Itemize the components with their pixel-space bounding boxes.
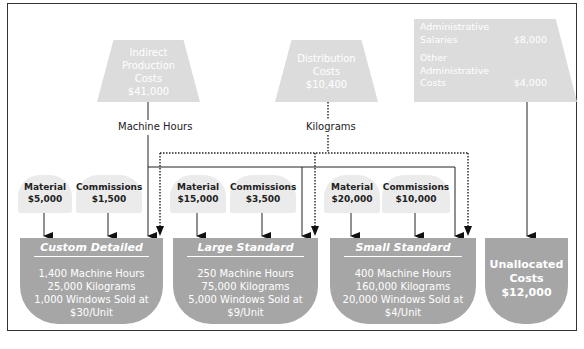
unallocated-label: Costs xyxy=(485,272,568,286)
product-detail: 75,000 Kilograms xyxy=(173,280,318,293)
direct-cost-label: Commissions xyxy=(230,181,296,193)
direct-cost-commissions: Commissions $1,500 xyxy=(76,175,142,213)
admin-label: Administrative xyxy=(420,65,577,78)
unallocated-amount: $12,000 xyxy=(485,286,568,300)
direct-cost-amount: $3,500 xyxy=(230,193,296,205)
direct-cost-material: Material $20,000 xyxy=(324,175,380,213)
pool-label: Indirect xyxy=(97,46,200,59)
admin-label: Costs xyxy=(420,77,446,90)
direct-cost-label: Commissions xyxy=(382,181,450,193)
direct-cost-amount: $1,500 xyxy=(76,193,142,205)
product-title: Large Standard xyxy=(187,238,304,257)
product-custom-detailed: Custom Detailed 1,400 Machine Hours 25,0… xyxy=(20,238,163,324)
direct-cost-label: Material xyxy=(170,181,226,193)
admin-label: Other xyxy=(420,52,577,65)
pool-indirect-production-costs: Indirect Production Costs $41,000 xyxy=(97,40,200,102)
direct-cost-amount: $20,000 xyxy=(324,193,380,205)
product-detail: $9/Unit xyxy=(173,306,318,319)
direct-cost-label: Commissions xyxy=(76,181,142,193)
driver-machine-hours: Machine Hours xyxy=(116,121,194,132)
pool-amount: $41,000 xyxy=(97,85,200,98)
pool-distribution-costs: Distribution Costs $10,400 xyxy=(275,40,378,102)
product-detail: 250 Machine Hours xyxy=(173,267,318,280)
product-detail: $30/Unit xyxy=(20,306,163,319)
admin-amount: $8,000 xyxy=(514,34,547,47)
pool-administrative-costs: Administrative Salaries$8,000 Other Admi… xyxy=(414,19,577,102)
admin-label: Salaries xyxy=(420,34,458,47)
direct-cost-label: Material xyxy=(18,181,72,193)
direct-cost-amount: $5,000 xyxy=(18,193,72,205)
admin-amount: $4,000 xyxy=(514,77,547,90)
product-title: Small Standard xyxy=(344,238,462,257)
direct-cost-material: Material $5,000 xyxy=(18,175,72,213)
product-small-standard: Small Standard 400 Machine Hours 160,000… xyxy=(330,238,476,324)
product-detail: 5,000 Windows Sold at xyxy=(173,293,318,306)
pool-amount: $10,400 xyxy=(275,78,378,91)
product-detail: 400 Machine Hours xyxy=(330,267,476,280)
product-detail: 1,000 Windows Sold at xyxy=(20,293,163,306)
product-detail: $4/Unit xyxy=(330,306,476,319)
direct-cost-amount: $10,000 xyxy=(382,193,450,205)
unallocated-label: Unallocated xyxy=(485,258,568,272)
direct-cost-amount: $15,000 xyxy=(170,193,226,205)
admin-label: Administrative xyxy=(420,21,577,34)
product-title: Custom Detailed xyxy=(34,238,149,257)
direct-cost-commissions: Commissions $3,500 xyxy=(230,175,296,213)
pool-label: Costs xyxy=(275,65,378,78)
pool-label: Distribution xyxy=(275,52,378,65)
pool-label: Production xyxy=(97,59,200,72)
driver-kilograms: Kilograms xyxy=(304,121,358,132)
product-detail: 160,000 Kilograms xyxy=(330,280,476,293)
product-detail: 25,000 Kilograms xyxy=(20,280,163,293)
product-detail: 20,000 Windows Sold at xyxy=(330,293,476,306)
pool-label: Costs xyxy=(97,72,200,85)
unallocated-costs: Unallocated Costs $12,000 xyxy=(485,238,568,324)
direct-cost-commissions: Commissions $10,000 xyxy=(382,175,450,213)
direct-cost-material: Material $15,000 xyxy=(170,175,226,213)
direct-cost-label: Material xyxy=(324,181,380,193)
product-detail: 1,400 Machine Hours xyxy=(20,267,163,280)
product-large-standard: Large Standard 250 Machine Hours 75,000 … xyxy=(173,238,318,324)
